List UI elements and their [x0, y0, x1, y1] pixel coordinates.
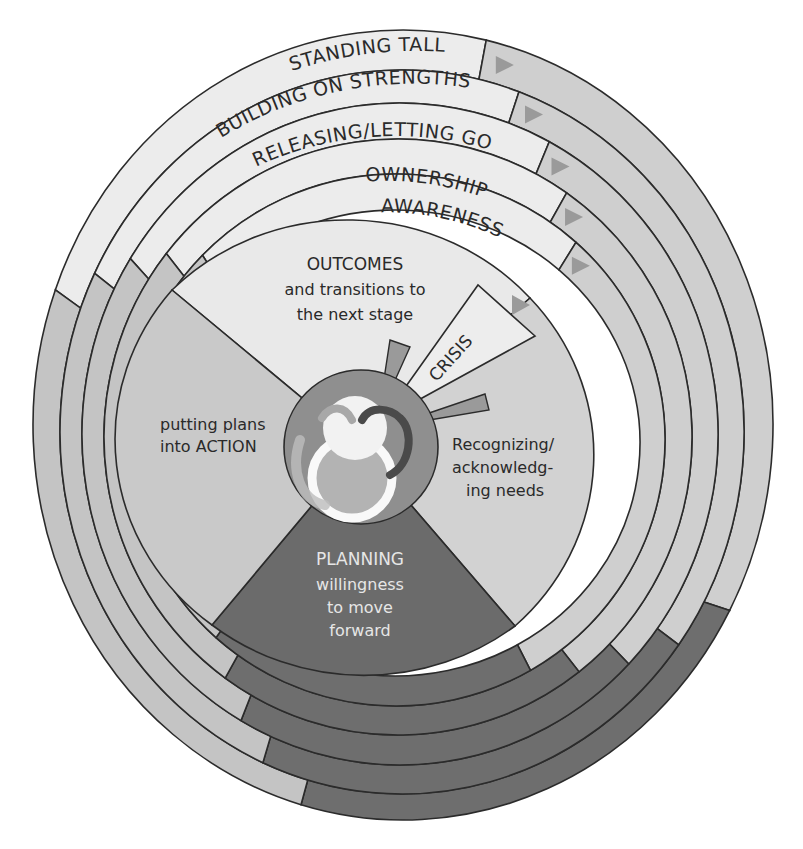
planning-line-2: to move	[327, 598, 393, 617]
outcomes-line-2: the next stage	[297, 305, 413, 324]
planning-line-1: willingness	[316, 575, 404, 594]
action-line-2: into ACTION	[160, 437, 257, 456]
recognizing-line-1: Recognizing/	[452, 435, 555, 454]
recognizing-line-2: acknowledg-	[452, 458, 553, 477]
action-line-1: putting plans	[160, 415, 266, 434]
planning-title: PLANNING	[316, 549, 404, 569]
outcomes-line-1: and transitions to	[285, 280, 426, 299]
growth-cycle-diagram: STANDING TALL BUILDING ON STRENGTHS RELE…	[0, 0, 803, 849]
planning-line-3: forward	[329, 621, 390, 640]
recognizing-line-3: ing needs	[466, 481, 544, 500]
outcomes-title: OUTCOMES	[307, 254, 404, 274]
